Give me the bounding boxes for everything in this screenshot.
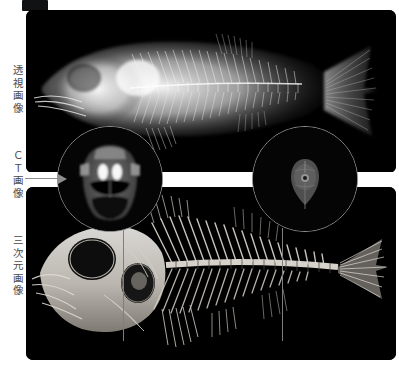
ct-slice-head <box>57 126 163 232</box>
ct-slice-body-illustration <box>252 126 358 232</box>
arrow-right-icon <box>25 170 71 188</box>
row-label-column: 透視画像 ＣＴ画像 三次元画像 <box>0 10 25 361</box>
ct-slice-body <box>252 126 358 232</box>
row-label-xray: 透視画像 <box>2 65 23 115</box>
connector-line-head-slice <box>123 228 124 341</box>
figure-root: 透視画像 ＣＴ画像 三次元画像 <box>0 0 399 369</box>
row-label-3d: 三次元画像 <box>2 235 23 298</box>
arrow-head <box>58 174 67 184</box>
row-label-ct: ＣＴ画像 <box>2 150 23 200</box>
ct-slice-head-illustration <box>57 126 163 232</box>
arrow-shaft <box>25 178 61 179</box>
connector-line-body-slice <box>282 228 283 341</box>
